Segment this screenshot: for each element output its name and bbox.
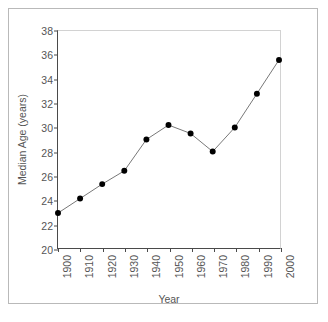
y-axis-tick-label: 38 [41,26,53,37]
data-point-marker: 1950: 30.2 [166,122,172,128]
y-axis-tick-label: 34 [41,74,53,85]
data-point-marker: 1930: 26.4 [121,168,127,174]
x-axis-tick [281,248,282,252]
y-axis-tick-label: 26 [41,172,53,183]
y-axis-tick [54,128,58,129]
y-axis-tick-label: 32 [41,99,53,110]
data-point-marker: 2000: 35.6 [276,57,282,63]
data-series-line: 1900: 22.91910: 24.11920: 25.31930: 26.4… [58,31,280,248]
x-axis-tick-label: 1950 [174,255,185,278]
x-axis-tick-label: 1900 [62,255,73,278]
x-axis-tick-label: 2000 [285,255,296,278]
data-point-marker: 1900: 22.9 [55,210,61,216]
data-point-marker: 1910: 24.1 [77,196,83,202]
x-axis-tick-label: 1920 [107,255,118,278]
data-point-marker: 1940: 29 [143,137,149,143]
plot-area: 1900: 22.91910: 24.11920: 25.31930: 26.4… [57,30,281,249]
y-axis-tick-label: 20 [41,245,53,256]
y-axis-title: Median Age (years) [15,30,29,249]
y-axis-tick [54,104,58,105]
x-axis-tick-label: 1940 [151,255,162,278]
x-axis-tick [259,248,260,252]
y-axis-tick-label: 22 [41,220,53,231]
x-axis-tick [58,248,59,252]
y-axis-tick [54,55,58,56]
data-point-marker: 1920: 25.3 [99,181,105,187]
data-point-marker: 1990: 32.8 [254,91,260,97]
series-polyline [58,60,279,213]
x-axis-tick-label: 1960 [196,255,207,278]
data-point-marker: 1980: 30 [232,124,238,130]
x-axis-tick [214,248,215,252]
x-axis-tick [80,248,81,252]
y-axis-tick [54,225,58,226]
y-axis-tick-label: 30 [41,123,53,134]
y-axis-tick-label: 28 [41,147,53,158]
y-axis-tick [54,152,58,153]
x-axis-title: Year [57,294,281,305]
y-axis-tick-label: 24 [41,196,53,207]
x-axis-tick [236,248,237,252]
x-axis-tick-label: 1910 [84,255,95,278]
x-axis-tick-label: 1990 [263,255,274,278]
x-axis-tick-label: 1930 [129,255,140,278]
x-axis-tick [103,248,104,252]
x-axis-tick [125,248,126,252]
y-axis-tick [54,177,58,178]
y-axis-tick [54,31,58,32]
x-axis-tick-label: 1970 [218,255,229,278]
x-axis-tick [192,248,193,252]
x-axis-tick [170,248,171,252]
y-axis-tick [54,201,58,202]
x-axis-tick [147,248,148,252]
data-point-marker: 1970: 28 [210,149,216,155]
y-axis-tick [54,79,58,80]
x-axis-tick-label: 1980 [240,255,251,278]
chart-figure: Median Age (years) 1900: 22.91910: 24.11… [8,8,318,304]
y-axis-tick-label: 36 [41,50,53,61]
data-point-marker: 1960: 29.5 [188,131,194,137]
